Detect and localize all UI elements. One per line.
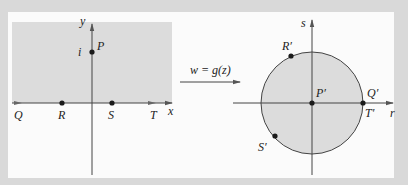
point-s: [109, 100, 114, 105]
point-s-prime: [272, 133, 277, 138]
point-r-prime-label: R′: [281, 39, 292, 53]
point-q-prime-label: Q′: [367, 86, 379, 100]
point-r-label: R: [57, 108, 66, 122]
point-q-label: Q: [14, 108, 23, 122]
mapping-label: w = g(z): [190, 63, 231, 77]
s-axis-label: s: [301, 16, 306, 30]
point-s-label: S: [108, 108, 114, 122]
point-p-value-label: i: [78, 45, 81, 59]
point-r-prime: [288, 53, 293, 58]
r-axis-label: r: [390, 106, 395, 120]
point-s-prime-label: S′: [258, 140, 267, 154]
point-r: [59, 100, 64, 105]
point-q-prime: [360, 100, 365, 105]
point-t-prime-label: T′: [365, 106, 375, 120]
point-p-prime-label: P′: [315, 86, 326, 100]
x-axis-label: x: [167, 104, 174, 118]
point-p: [89, 49, 94, 54]
y-axis-label: y: [79, 14, 86, 28]
point-p-prime: [309, 100, 314, 105]
conformal-map-figure: y x i P Q R S T w = g(z) s r P′ Q′ T′: [0, 0, 408, 185]
point-p-label: P: [96, 39, 105, 53]
